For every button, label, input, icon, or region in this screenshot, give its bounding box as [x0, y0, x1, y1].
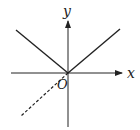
coordinate-diagram: y x O [0, 0, 140, 130]
left-branch-line [16, 30, 68, 73]
right-branch-line [68, 29, 120, 73]
y-axis-label: y [62, 3, 72, 19]
origin-label: O [57, 77, 68, 92]
x-axis-label: x [127, 65, 135, 81]
